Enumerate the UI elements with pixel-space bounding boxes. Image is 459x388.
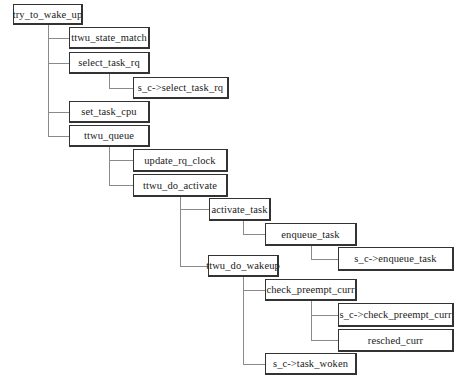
connector-trunk-select-task-rq (109, 74, 110, 88)
connector-trunk-ttwu-do-activate (180, 197, 181, 266)
node-enqueue-task: enqueue_task (265, 223, 357, 246)
connector-to-ttwu-state-match (48, 38, 69, 39)
node-sc-task-woken: s_c->task_woken (265, 353, 357, 375)
node-ttwu-do-wakeup: ttwu_do_wakeup (208, 255, 279, 277)
connector-to-update-rq-clock (109, 160, 133, 161)
connector-to-sc-select-task-rq (109, 88, 133, 89)
node-update-rq-clock: update_rq_clock (133, 149, 228, 172)
node-select-task-rq: select_task_rq (69, 52, 150, 74)
connector-to-check-preempt-curr (243, 290, 265, 291)
connector-to-resched-curr (311, 340, 338, 341)
connector-to-ttwu-do-activate (109, 185, 133, 186)
connector-to-sc-enqueue-task (311, 259, 338, 260)
node-set-task-cpu: set_task_cpu (69, 101, 150, 123)
connector-trunk-enqueue-task (311, 246, 312, 259)
node-resched-curr: resched_curr (338, 329, 454, 352)
node-ttwu-queue: ttwu_queue (69, 125, 150, 147)
connector-to-ttwu-do-wakeup (180, 266, 208, 267)
connector-to-ttwu-queue (48, 136, 69, 137)
connector-to-sc-task-woken (243, 364, 265, 365)
connector-to-activate-task (180, 209, 209, 210)
node-ttwu-do-activate: ttwu_do_activate (133, 174, 228, 197)
node-activate-task: activate_task (209, 198, 271, 221)
connector-trunk-activate-task (243, 221, 244, 234)
connector-to-set-task-cpu (48, 112, 69, 113)
node-sc-check-preempt-curr: s_c->check_preempt_curr (338, 303, 454, 327)
connector-trunk-root (48, 25, 49, 136)
connector-to-enqueue-task (243, 234, 265, 235)
node-ttwu-state-match: ttwu_state_match (69, 27, 150, 49)
call-tree-diagram: try_to_wake_up ttwu_state_match select_t… (0, 0, 459, 388)
node-check-preempt-curr: check_preempt_curr (265, 279, 357, 301)
connector-to-sc-check-preempt-curr (311, 315, 338, 316)
node-sc-select-task-rq: s_c->select_task_rq (133, 77, 229, 99)
node-sc-enqueue-task: s_c->enqueue_task (338, 247, 454, 271)
connector-trunk-ttwu-queue (109, 147, 110, 185)
node-try-to-wake-up: try_to_wake_up (13, 4, 83, 25)
connector-to-select-task-rq (48, 63, 69, 64)
connector-trunk-check-preempt-curr (311, 301, 312, 340)
